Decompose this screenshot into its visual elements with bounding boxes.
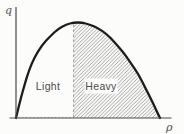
light-region-mask [0,0,74,117]
traffic-flow-diagram: q ρ Light Heavy [0,0,184,134]
heavy-region-label: Heavy [85,80,117,92]
light-region-label: Light [36,80,60,92]
flow-density-chart: q ρ Light Heavy [0,0,184,134]
x-axis-label: ρ [165,121,173,134]
y-axis-label: q [5,4,12,17]
